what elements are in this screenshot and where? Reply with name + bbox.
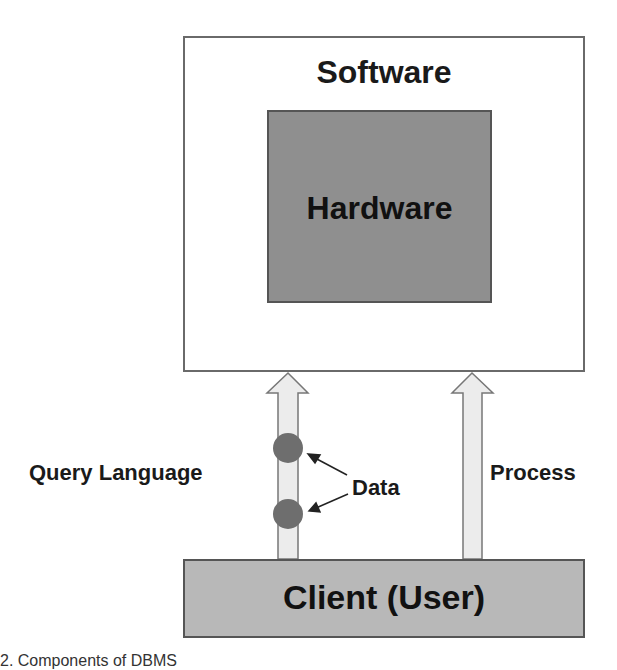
data-marker-icon — [273, 433, 303, 463]
client-label: Client (User) — [183, 578, 585, 617]
query-language-arrow-icon — [267, 373, 308, 559]
data-label: Data — [352, 475, 400, 501]
process-label: Process — [490, 460, 576, 486]
query-language-label: Query Language — [29, 460, 203, 486]
process-arrow-icon — [452, 373, 493, 559]
data-marker-icon — [273, 499, 303, 529]
figure-caption: 2. Components of DBMS — [0, 652, 177, 670]
data-pointer-icon — [308, 454, 348, 512]
